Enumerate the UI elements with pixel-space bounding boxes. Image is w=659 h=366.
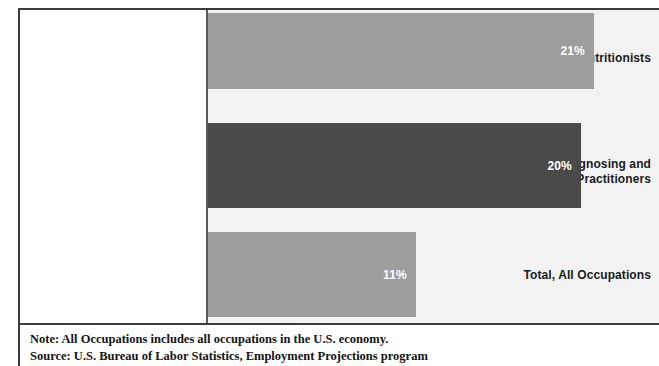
chart-figure: Dietitians and Nutritionists 21% Health … <box>0 0 659 366</box>
bar-fill <box>208 13 594 89</box>
bar-total-all-occupations: 11% <box>208 232 416 317</box>
category-label-column <box>20 10 206 323</box>
footer-source: Source: U.S. Bureau of Labor Statistics,… <box>30 348 650 365</box>
footer-note: Note: All Occupations includes all occup… <box>30 331 650 348</box>
category-label-line: Total, All Occupations <box>473 268 651 283</box>
bar-fill <box>208 123 581 208</box>
chart-footer: Note: All Occupations includes all occup… <box>30 331 650 365</box>
bar-value-label: 21% <box>560 44 585 58</box>
bar-value-label: 11% <box>383 268 407 282</box>
bar-health-diagnosing-and-treating-practitioners: 20% <box>208 123 581 208</box>
bar-value-label: 20% <box>547 159 572 173</box>
footer-separator <box>18 323 659 325</box>
bar-chart: Dietitians and Nutritionists 21% Health … <box>20 10 659 323</box>
bar-dietitians-and-nutritionists: 21% <box>208 13 594 89</box>
category-label-total-all-occupations: Total, All Occupations <box>473 268 651 283</box>
